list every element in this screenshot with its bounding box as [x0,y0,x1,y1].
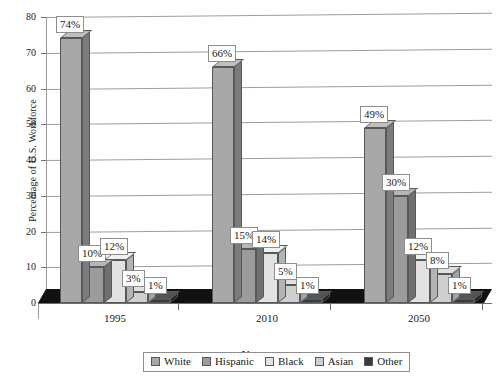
data-label: 14% [252,231,280,248]
y-axis-line [46,17,47,303]
y-tick-label: 80 [10,12,36,22]
chart-root: Percentage of U.S. Workforce Year 010203… [0,0,504,384]
y-tick-label: 40 [10,155,36,165]
legend-label: White [164,355,191,368]
y-tick-label: 10 [10,262,36,272]
legend-label: Hispanic [215,355,254,368]
data-label: 49% [360,106,388,123]
x-category-label: 2050 [389,312,449,324]
data-label: 1% [144,277,167,294]
bar-side-face [256,243,264,303]
y-tick-label: 20 [10,227,36,237]
data-label: 30% [382,174,410,191]
legend-item-asian[interactable]: Asian [315,355,354,368]
data-label: 8% [426,252,449,269]
bar-side-face [234,61,242,303]
data-label: 1% [296,277,319,294]
bar-front-face [364,128,386,303]
data-label: 5% [274,263,297,280]
x-axis-line [38,303,492,304]
legend-item-black[interactable]: Black [265,355,304,368]
legend: WhiteHispanicBlackAsianOther [143,352,410,372]
bar-front-face [60,38,82,303]
x-category-label: 2010 [237,312,297,324]
y-axis-depth-line [38,303,39,319]
data-label: 12% [100,238,128,255]
legend-item-hispanic[interactable]: Hispanic [202,355,254,368]
x-tick-mark [330,304,331,310]
gridline [46,84,492,89]
x-tick-mark [178,304,179,310]
gridline [46,48,492,53]
gridline [46,191,492,196]
bar-side-face [386,122,394,303]
legend-swatch-icon [315,357,324,366]
legend-swatch-icon [364,357,373,366]
x-category-label: 1995 [85,312,145,324]
bar-side-face [104,261,112,303]
legend-label: Black [278,355,304,368]
data-label: 74% [56,16,84,33]
bar [364,128,386,303]
legend-label: Asian [328,355,354,368]
legend-label: Other [377,355,402,368]
bar-front-face [212,67,234,303]
y-tick-label: 0 [10,298,36,308]
legend-item-other[interactable]: Other [364,355,402,368]
data-label: 66% [208,45,236,62]
y-tick-label: 30 [10,191,36,201]
y-tick-label: 60 [10,84,36,94]
bar-side-face [82,32,90,303]
bar [212,67,234,303]
x-tick-mark [482,304,483,310]
data-label: 1% [448,277,471,294]
y-tick-label: 50 [10,119,36,129]
legend-swatch-icon [202,357,211,366]
bar [60,38,82,303]
legend-item-white[interactable]: White [151,355,191,368]
legend-swatch-icon [151,357,160,366]
legend-swatch-icon [265,357,274,366]
y-tick-label: 70 [10,48,36,58]
gridline [46,13,492,18]
gridline [46,156,492,161]
gridline [46,120,492,125]
data-label: 3% [122,270,145,287]
